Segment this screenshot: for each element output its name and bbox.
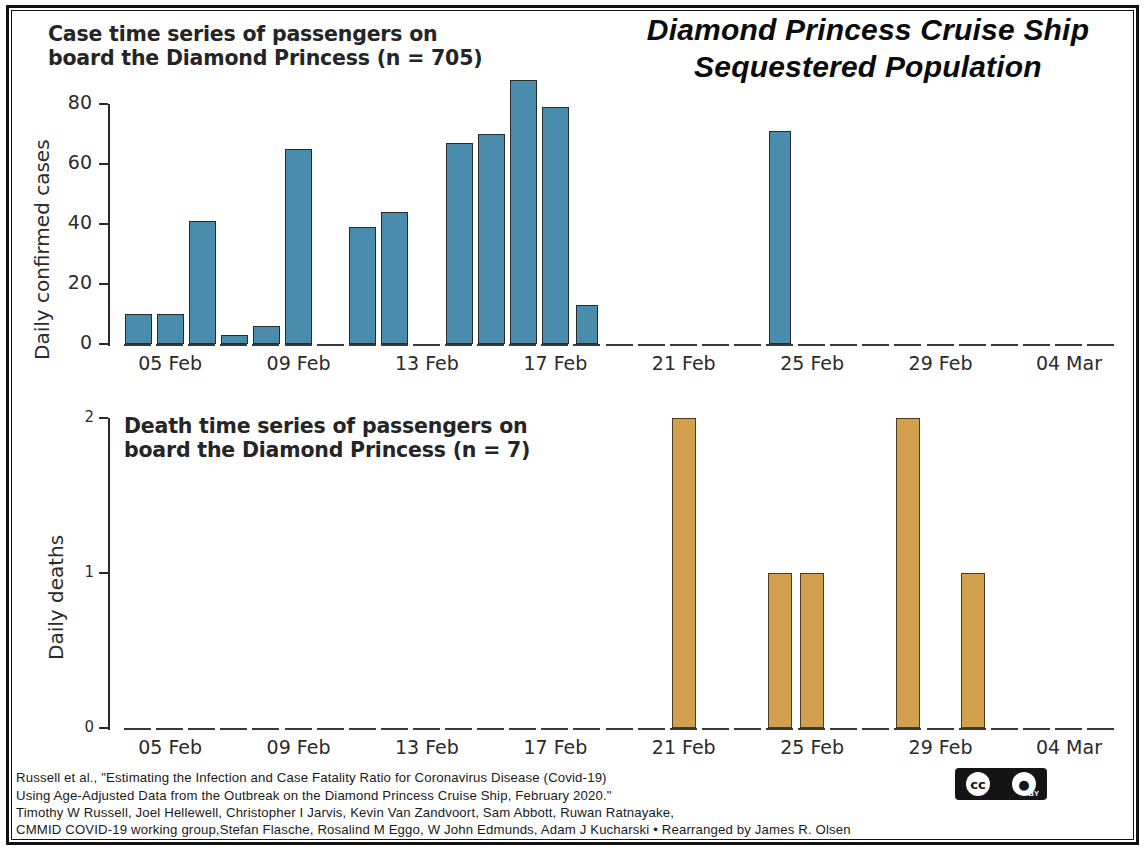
deaths-baseline-segment [1087, 728, 1114, 730]
deaths-baseline-segment [766, 728, 793, 730]
cases-baseline-segment [638, 344, 665, 346]
deaths-bar [961, 573, 985, 728]
deaths-baseline-segment [413, 728, 440, 730]
cases-baseline-segment [830, 344, 857, 346]
deaths-chart: 21005 Feb09 Feb13 Feb17 Feb21 Feb25 Feb2… [116, 418, 1121, 755]
deaths-x-tick-label: 09 Feb [267, 736, 331, 758]
deaths-y-tickmark [99, 417, 108, 419]
deaths-baseline-segment [541, 728, 568, 730]
cases-baseline-segment [381, 344, 408, 346]
deaths-baseline-segment [188, 728, 215, 730]
cases-baseline-segment [252, 344, 279, 346]
deaths-y-tick-label: 0 [38, 718, 94, 736]
cases-baseline-segment [1087, 344, 1114, 346]
cases-baseline-segment [349, 344, 376, 346]
cases-y-tick-label: 80 [36, 91, 92, 113]
deaths-x-tick-label: 25 Feb [780, 736, 844, 758]
cases-x-tick-label: 13 Feb [395, 352, 459, 374]
cases-y-tickmark [99, 343, 108, 345]
cases-bar [253, 326, 280, 344]
cases-baseline-segment [959, 344, 986, 346]
deaths-baseline-segment [702, 728, 729, 730]
deaths-baseline-segment [606, 728, 633, 730]
creative-commons-badge: cc ● BY [955, 768, 1047, 800]
cases-x-tick-label: 21 Feb [652, 352, 716, 374]
deaths-baseline-segment [830, 728, 857, 730]
cc-icon: cc [966, 772, 990, 796]
cases-baseline-segment [862, 344, 889, 346]
deaths-bar [800, 573, 824, 728]
cases-bar [157, 314, 184, 344]
deaths-baseline-segment [349, 728, 376, 730]
deaths-baseline-segment [734, 728, 761, 730]
deaths-baseline-segment [1023, 728, 1050, 730]
deaths-baseline-segment [862, 728, 889, 730]
cases-baseline-segment [798, 344, 825, 346]
deaths-baseline-segment [991, 728, 1018, 730]
cases-bar [446, 143, 473, 344]
cases-baseline-segment [317, 344, 344, 346]
cases-baseline-segment [766, 344, 793, 346]
cases-y-tickmark [99, 223, 108, 225]
deaths-baseline-segment [445, 728, 472, 730]
deaths-y-tick-label: 1 [38, 563, 94, 581]
deaths-baseline-segment [156, 728, 183, 730]
cases-baseline-segment [1055, 344, 1082, 346]
deaths-baseline-segment [381, 728, 408, 730]
deaths-x-tick-label: 05 Feb [138, 736, 202, 758]
cases-x-tick-label: 04 Mar [1036, 352, 1102, 374]
deaths-bar [896, 418, 920, 728]
deaths-y-axis-label: Daily deaths [44, 535, 68, 660]
deaths-baseline-segment [285, 728, 312, 730]
cases-bar [349, 227, 376, 344]
cases-bar [285, 149, 312, 344]
deaths-x-tick-label: 04 Mar [1036, 736, 1102, 758]
cases-bar [769, 131, 791, 344]
cases-x-tick-label: 05 Feb [138, 352, 202, 374]
deaths-baseline-segment [927, 728, 954, 730]
deaths-bar [768, 573, 792, 728]
cases-bar [189, 221, 216, 344]
cases-bar [381, 212, 408, 344]
deaths-baseline-segment [670, 728, 697, 730]
cases-baseline-segment [220, 344, 247, 346]
cases-baseline-segment [702, 344, 729, 346]
deaths-x-tick-label: 29 Feb [909, 736, 973, 758]
cases-y-tickmark [99, 283, 108, 285]
cases-bar [542, 107, 569, 344]
deaths-y-tickmark [99, 727, 108, 729]
cc-by-label: BY [1029, 789, 1039, 798]
cases-bar [125, 314, 152, 344]
deaths-baseline-segment [959, 728, 986, 730]
cases-y-tick-label: 60 [36, 151, 92, 173]
cases-baseline-segment [413, 344, 440, 346]
deaths-baseline-segment [124, 728, 151, 730]
deaths-x-tick-label: 13 Feb [395, 736, 459, 758]
cases-baseline-segment [445, 344, 472, 346]
cases-baseline-segment [573, 344, 600, 346]
deaths-baseline-segment [252, 728, 279, 730]
deaths-baseline-segment [317, 728, 344, 730]
cases-baseline-segment [894, 344, 921, 346]
deaths-baseline-segment [573, 728, 600, 730]
cases-baseline-segment [927, 344, 954, 346]
cases-bar [510, 80, 537, 344]
cases-baseline-segment [477, 344, 504, 346]
cases-y-tickmark [99, 163, 108, 165]
cases-y-tick-label: 20 [36, 271, 92, 293]
deaths-baseline-segment [638, 728, 665, 730]
deaths-y-tickmark [99, 572, 108, 574]
cases-y-tickmark [99, 103, 108, 105]
cases-chart: 80604020005 Feb09 Feb13 Feb17 Feb21 Feb2… [116, 26, 1121, 370]
cases-x-tick-label: 09 Feb [267, 352, 331, 374]
cases-baseline-segment [734, 344, 761, 346]
cases-y-tick-label: 0 [36, 331, 92, 353]
deaths-baseline-segment [894, 728, 921, 730]
cases-baseline-segment [991, 344, 1018, 346]
cases-baseline-segment [285, 344, 312, 346]
cases-y-tick-label: 40 [36, 211, 92, 233]
deaths-y-axis-spine [108, 418, 110, 730]
deaths-baseline-segment [798, 728, 825, 730]
poster-root: Diamond Princess Cruise Ship Sequestered… [0, 0, 1145, 850]
cases-baseline-segment [606, 344, 633, 346]
